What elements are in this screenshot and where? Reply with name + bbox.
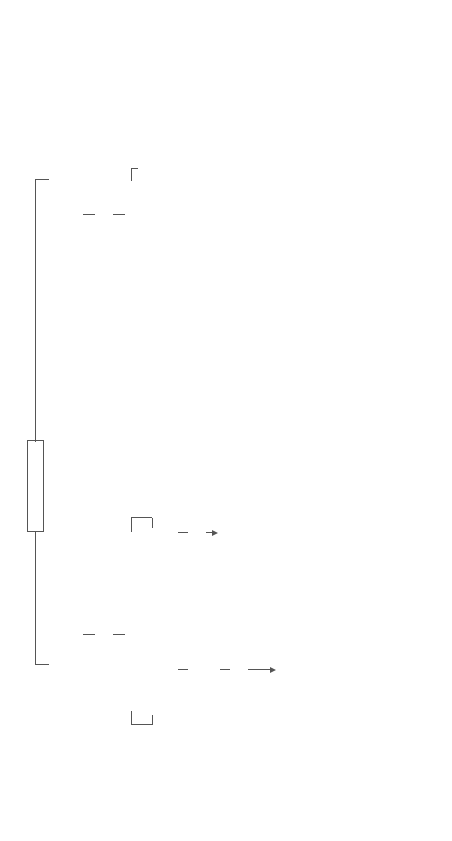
left-culture-drop — [35, 664, 49, 665]
left-blood-agar-connector — [220, 669, 230, 670]
left-bacilli-connector — [178, 532, 188, 533]
left-neg-bracket — [131, 517, 152, 518]
arrow-down-icon — [212, 530, 218, 536]
left-gram-neg-line — [131, 518, 132, 532]
left-hemolysis-arrow-line — [248, 669, 272, 670]
trunk-connector-right — [35, 180, 36, 442]
arrow-down-icon — [270, 667, 276, 673]
left-connector-2 — [113, 634, 125, 635]
left-cocci-connector — [178, 669, 188, 670]
right-connector-2 — [113, 214, 125, 215]
right-connector-1 — [83, 214, 95, 215]
right-neg-stub — [131, 168, 138, 169]
left-connector-1 — [83, 634, 95, 635]
left-neg-bracket-foot — [152, 518, 153, 528]
right-gram-neg-line — [131, 169, 132, 181]
left-pos-bracket-foot — [152, 715, 153, 725]
blood-sample-box — [27, 440, 44, 532]
trunk-connector-left — [35, 532, 36, 665]
blood-sample-flowchart — [0, 0, 452, 841]
left-gram-pos-line — [131, 711, 132, 725]
right-culture-drop — [35, 179, 49, 180]
left-pos-bracket — [131, 724, 152, 725]
